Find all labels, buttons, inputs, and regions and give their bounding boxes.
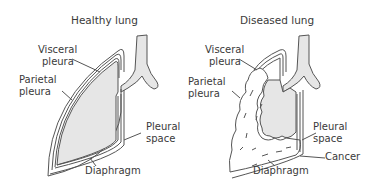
diseased-pleural-space-label-1: Pleural [313,121,347,132]
healthy-diaphragm-label: Diaphragm [85,165,141,176]
healthy-visceral-label-2: pleura [42,56,74,67]
healthy-pleural-space-label-2: space [146,133,175,144]
diseased-visceral-label-1: Visceral [205,44,244,55]
healthy-lung-title: Healthy lung [71,14,138,26]
healthy-parietal-label-1: Parietal [19,74,57,85]
healthy-parietal-label-2: pleura [19,86,51,97]
lung-diagram-canvas [0,0,371,189]
diseased-diaphragm-label: Diaphragm [253,165,309,176]
diseased-lung-illustration [229,35,325,178]
diseased-parietal-label-2: pleura [188,88,220,99]
healthy-pleural-space-label-1: Pleural [146,121,180,132]
diseased-cancer-label: Cancer [325,151,360,162]
healthy-visceral-label-1: Visceral [38,44,77,55]
diseased-pleural-space-label-2: space [313,133,342,144]
diseased-parietal-label-1: Parietal [188,76,226,87]
diseased-lung-title: Diseased lung [240,14,314,26]
diseased-visceral-label-2: pleura [209,56,241,67]
